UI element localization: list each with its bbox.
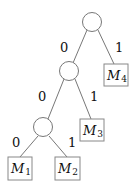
leaf-m3-sub: 3 <box>97 129 103 139</box>
edge-n2-left <box>20 136 38 157</box>
leaf-m3-name: M <box>82 123 97 138</box>
leaf-m4-name: M <box>106 68 121 83</box>
edge-n1-left <box>48 79 64 119</box>
leaf-m1: M1 <box>8 157 32 180</box>
leaf-m2-name: M <box>57 161 72 176</box>
leaf-m4: M4 <box>104 64 128 86</box>
leaf-m2: M2 <box>55 157 80 180</box>
edge-label-n2-left: 0 <box>12 135 20 150</box>
tree-svg: 0 1 0 1 0 1 M4 M3 M1 M2 <box>0 0 137 193</box>
edge-root-right <box>98 30 114 64</box>
root-node <box>83 13 102 32</box>
edge-n1-right <box>75 79 91 119</box>
edge-label-n1-left: 0 <box>38 89 46 104</box>
edge-label-n2-right: 1 <box>68 135 76 150</box>
leaf-m1-sub: 1 <box>25 167 31 177</box>
internal-node-2 <box>34 118 53 137</box>
edge-label-root-left: 0 <box>60 40 68 55</box>
edge-label-root-right: 1 <box>115 40 123 55</box>
edge-n2-right <box>49 136 67 157</box>
edge-label-n1-right: 1 <box>90 89 98 104</box>
leaf-m4-sub: 4 <box>121 74 127 84</box>
tree-diagram: 0 1 0 1 0 1 M4 M3 M1 M2 <box>0 0 137 193</box>
leaf-m3: M3 <box>80 119 104 141</box>
internal-node-1 <box>60 62 79 81</box>
edge-root-left <box>73 30 87 63</box>
leaf-m2-sub: 2 <box>72 167 78 177</box>
leaf-m1-name: M <box>10 161 25 176</box>
